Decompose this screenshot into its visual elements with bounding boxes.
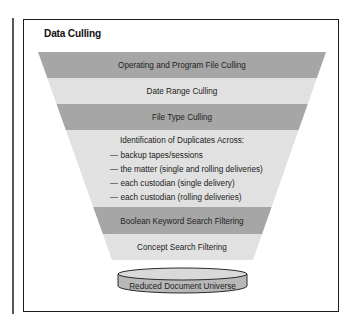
funnel-diagram: Operating and Program File Culling Date … [0, 0, 361, 329]
duplicate-scope-item: — each custodian (rolling deliveries) [110, 191, 241, 202]
funnel-stage-2-label: Date Range Culling [147, 86, 218, 97]
funnel-stage-4-label: Identification of Duplicates Across: [120, 134, 244, 145]
duplicate-scope-item: — the matter (single and rolling deliver… [110, 163, 263, 174]
duplicate-scope-item: — each custodian (single delivery) [110, 177, 235, 188]
funnel-stage-1-label: Operating and Program File Culling [118, 60, 246, 71]
duplicate-scope-item: — backup tapes/sessions [110, 149, 203, 160]
output-label: Reduced Document Universe [129, 280, 236, 291]
funnel-stage-5-label: Boolean Keyword Search Filtering [120, 215, 243, 226]
funnel-stage-3-label: File Type Culling [152, 112, 212, 123]
funnel-stage-6-label: Concept Search Filtering [137, 242, 227, 253]
